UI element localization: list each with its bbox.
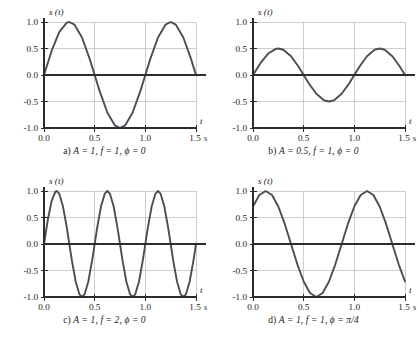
panel-a-yticklabel-0: -1.0: [23, 123, 38, 133]
panel-b-y-axis-title: s (t): [258, 7, 273, 17]
panel-d-xticklabel-2: 1.0: [349, 302, 361, 312]
panel-d-xticklabel-3: 1.5: [398, 302, 410, 312]
sine-wave-figure: -1.0-0.50.00.51.00.00.51.01.5ss (t)t a) …: [0, 0, 418, 338]
panel-a-caption-frequency: f = 1,: [100, 146, 122, 156]
panel-b-caption-amplitude: A = 0.5,: [279, 146, 311, 156]
panel-c: -1.0-0.50.00.51.00.00.51.01.5ss (t)t c) …: [0, 169, 209, 338]
panel-a-caption-phase: ϕ = 0: [124, 146, 145, 156]
panel-d-caption-frequency: f = 1,: [306, 315, 328, 325]
panel-a-xticklabel-2: 1.0: [140, 133, 152, 143]
panel-b-caption-prefix: b): [268, 146, 276, 156]
panel-b-xticklabel-3: 1.5: [398, 133, 410, 143]
panel-b-xticklabel-0: 0.0: [247, 133, 259, 143]
panel-a-plot: -1.0-0.50.00.51.00.00.51.01.5ss (t)t: [0, 0, 209, 148]
panel-d: -1.0-0.50.00.51.00.00.51.01.5ss (t)t d) …: [209, 169, 418, 338]
panel-c-yticklabel-2: 0.0: [27, 239, 39, 249]
panel-b-plot: -1.0-0.50.00.51.00.00.51.01.5ss (t)t: [209, 0, 418, 148]
panel-b-caption-phase: ϕ = 0: [337, 146, 358, 156]
panel-a-yticklabel-2: 0.0: [27, 70, 39, 80]
panel-d-yticklabel-4: 1.0: [236, 186, 248, 196]
panel-b-xticklabel-2: 1.0: [349, 133, 361, 143]
panel-d-yticklabel-2: 0.0: [236, 239, 248, 249]
panel-d-xticklabel-0: 0.0: [247, 302, 259, 312]
panel-c-x-axis-title: t: [200, 285, 203, 295]
panel-b-caption: b) A = 0.5, f = 1, ϕ = 0: [209, 146, 418, 156]
panel-b-caption-frequency: f = 1,: [313, 146, 335, 156]
panel-c-caption-frequency: f = 2,: [100, 315, 122, 325]
panel-c-yticklabel-1: -0.5: [23, 266, 38, 276]
panel-a: -1.0-0.50.00.51.00.00.51.01.5ss (t)t a) …: [0, 0, 209, 169]
panel-d-x-unit-label: s: [413, 303, 416, 312]
panel-c-caption-phase: ϕ = 0: [124, 315, 145, 325]
panel-d-xticklabel-1: 0.5: [298, 302, 310, 312]
panel-b-xticklabel-1: 0.5: [298, 133, 310, 143]
panel-d-x-axis-title: t: [409, 285, 412, 295]
panel-a-yticklabel-3: 0.5: [27, 44, 39, 54]
panel-c-xticklabel-0: 0.0: [38, 302, 50, 312]
panel-d-plot: -1.0-0.50.00.51.00.00.51.01.5ss (t)t: [209, 169, 418, 317]
panel-c-x-unit-label: s: [204, 303, 207, 312]
panel-c-xticklabel-1: 0.5: [89, 302, 101, 312]
panel-d-caption-amplitude: A = 1,: [279, 315, 304, 325]
panel-d-caption: d) A = 1, f = 1, ϕ = π/4: [209, 315, 418, 325]
panel-c-yticklabel-3: 0.5: [27, 213, 39, 223]
panel-b-yticklabel-3: 0.5: [236, 44, 248, 54]
panel-a-xticklabel-1: 0.5: [89, 133, 101, 143]
panel-c-xticklabel-3: 1.5: [189, 302, 201, 312]
panel-b-x-unit-label: s: [413, 134, 416, 143]
panel-b-yticklabel-1: -0.5: [232, 97, 247, 107]
panel-b-x-axis-title: t: [409, 116, 412, 126]
panel-c-caption: c) A = 1, f = 2, ϕ = 0: [0, 315, 209, 325]
panel-b-yticklabel-2: 0.0: [236, 70, 248, 80]
panel-c-yticklabel-0: -1.0: [23, 292, 38, 302]
panel-d-svg: -1.0-0.50.00.51.00.00.51.01.5ss (t)t: [209, 169, 418, 317]
panel-b-yticklabel-0: -1.0: [232, 123, 247, 133]
panel-c-axes: [41, 187, 207, 301]
panel-d-y-axis-title: s (t): [258, 176, 273, 186]
panel-d-caption-prefix: d): [268, 315, 276, 325]
panel-c-caption-amplitude: A = 1,: [73, 315, 98, 325]
panel-d-caption-phase: ϕ = π/4: [330, 315, 359, 325]
panel-a-svg: -1.0-0.50.00.51.00.00.51.01.5ss (t)t: [0, 0, 209, 148]
panel-c-yticklabel-4: 1.0: [27, 186, 39, 196]
panel-b-svg: -1.0-0.50.00.51.00.00.51.01.5ss (t)t: [209, 0, 418, 148]
panel-a-caption-prefix: a): [63, 146, 71, 156]
panel-c-svg: -1.0-0.50.00.51.00.00.51.01.5ss (t)t: [0, 169, 209, 317]
panel-a-x-unit-label: s: [204, 134, 207, 143]
panel-a-caption-amplitude: A = 1,: [73, 146, 98, 156]
panel-a-yticklabel-1: -0.5: [23, 97, 38, 107]
panel-a-y-axis-title: s (t): [49, 7, 64, 17]
panel-d-yticklabel-3: 0.5: [236, 213, 248, 223]
panel-c-xticklabel-2: 1.0: [140, 302, 152, 312]
panel-c-caption-prefix: c): [63, 315, 71, 325]
panel-a-xticklabel-0: 0.0: [38, 133, 50, 143]
panel-a-x-axis-title: t: [200, 116, 203, 126]
panel-a-yticklabel-4: 1.0: [27, 17, 39, 27]
panel-a-xticklabel-3: 1.5: [189, 133, 201, 143]
panel-c-plot: -1.0-0.50.00.51.00.00.51.01.5ss (t)t: [0, 169, 209, 317]
panel-b-axes: [250, 18, 416, 132]
panel-d-yticklabel-1: -0.5: [232, 266, 247, 276]
panel-d-yticklabel-0: -1.0: [232, 292, 247, 302]
panel-c-y-axis-title: s (t): [49, 176, 64, 186]
panel-a-caption: a) A = 1, f = 1, ϕ = 0: [0, 146, 209, 156]
panel-d-axes: [250, 187, 416, 301]
panel-b: -1.0-0.50.00.51.00.00.51.01.5ss (t)t b) …: [209, 0, 418, 169]
panel-b-yticklabel-4: 1.0: [236, 17, 248, 27]
